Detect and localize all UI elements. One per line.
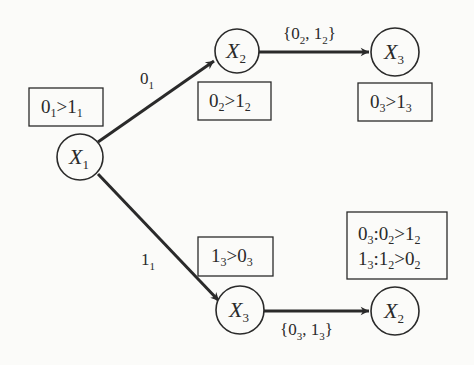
- preference-box-x2-top: 02>12: [198, 82, 271, 120]
- preference-box-x2-bottom: 03:02>12 13:12>02: [347, 212, 447, 279]
- edge-x1-x2-top: 01: [98, 61, 214, 142]
- node-x2-top: X2: [215, 29, 259, 73]
- edge-label-1-1: 11: [141, 250, 155, 272]
- conditional-preference-line-1: 03:02>12: [358, 223, 421, 247]
- edge-x3-x2-bottom: {03, 13}: [264, 311, 369, 342]
- preference-box-x1: 01>11: [29, 88, 103, 126]
- svg-text:02>12: 02>12: [209, 90, 251, 114]
- preference-box-x3-top: 03>13: [358, 83, 432, 121]
- edge-label-set-2: {02, 12}: [283, 24, 336, 46]
- node-x2-bottom: X2: [371, 287, 419, 335]
- conditional-preference-line-2: 13:12>02: [358, 248, 421, 272]
- node-x3-top: X3: [371, 28, 419, 76]
- node-x1: X1: [57, 134, 103, 180]
- svg-text:03>13: 03>13: [370, 91, 412, 115]
- edge-label-0-1: 01: [140, 69, 154, 91]
- edge-label-set-3: {03, 13}: [280, 320, 333, 342]
- node-x3-bottom: X3: [216, 286, 264, 334]
- edge-x2-x3-top: {02, 12}: [259, 24, 369, 52]
- tree-diagram: 01 {02, 12} 11 {03, 13} X1 X2 X3 X3 X2 0…: [0, 0, 474, 365]
- preference-box-x3-bottom: 13>03: [198, 237, 273, 276]
- svg-text:01>11: 01>11: [41, 96, 83, 120]
- svg-text:13>03: 13>03: [211, 245, 253, 269]
